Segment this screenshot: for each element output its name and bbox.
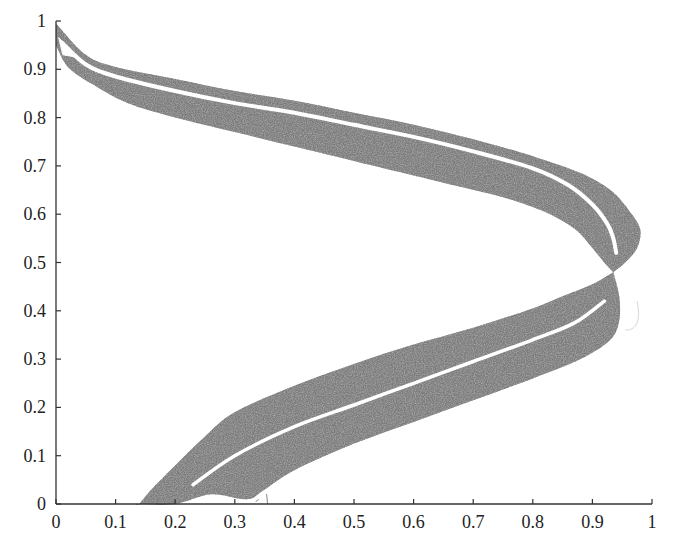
x-tick-label: 0.6 xyxy=(402,512,425,532)
scatter-chart: 00.10.20.30.40.50.60.70.80.91 00.10.20.3… xyxy=(0,0,675,560)
y-tick-label: 0 xyxy=(37,494,46,514)
y-tick-label: 0.6 xyxy=(24,204,47,224)
y-tick-label: 0.3 xyxy=(24,349,47,369)
y-tick-label: 0.8 xyxy=(24,108,47,128)
lower-band-stipple xyxy=(136,272,620,505)
x-tick-label: 0.3 xyxy=(224,512,247,532)
faint-arc-artifact xyxy=(625,301,638,330)
x-tick-label: 0.1 xyxy=(104,512,127,532)
y-tick-label: 0.1 xyxy=(24,446,47,466)
x-tick-label: 0 xyxy=(52,512,61,532)
x-tick-label: 0.8 xyxy=(522,512,545,532)
x-tick-label: 1 xyxy=(648,512,657,532)
x-tick-label: 0.2 xyxy=(164,512,187,532)
x-tick-label: 0.5 xyxy=(343,512,366,532)
y-tick-label: 0.7 xyxy=(24,156,47,176)
y-tick-label: 0.2 xyxy=(24,397,47,417)
y-tick-label: 0.5 xyxy=(24,253,47,273)
x-tick-label: 0.9 xyxy=(581,512,604,532)
y-tick-label: 0.4 xyxy=(24,301,47,321)
upper-band-stipple xyxy=(56,23,641,273)
attractor-point-cloud xyxy=(56,23,641,505)
y-tick-label: 0.9 xyxy=(24,59,47,79)
x-tick-label: 0.7 xyxy=(462,512,485,532)
x-tick-label: 0.4 xyxy=(283,512,306,532)
y-tick-label: 1 xyxy=(37,11,46,31)
